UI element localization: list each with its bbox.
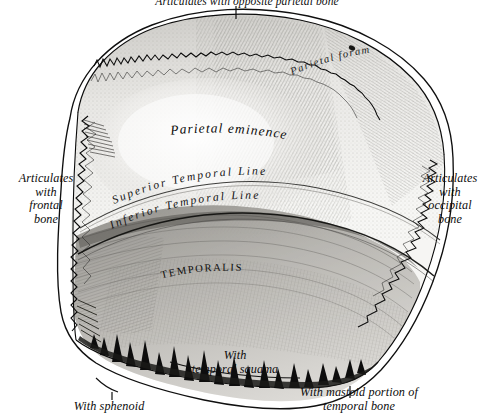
anatomical-plate: Parietal eminence Superior Temporal Line… [0,0,494,419]
label-articulates-occipital-bone: Articulates with occipital bone [408,172,492,227]
leader-curve-sphenoid [96,378,118,392]
label-with-temporal-squama: With temporal squama [152,349,318,376]
label-with-sphenoid: With sphenoid [34,400,184,414]
label-articulates-opposite-parietal: Articulates with opposite parietal bone [0,0,494,8]
label-with-mastoid-portion: With mastoid portion of temporal bone [266,386,452,413]
label-articulates-frontal-bone: Articulates with frontal bone [4,172,88,227]
